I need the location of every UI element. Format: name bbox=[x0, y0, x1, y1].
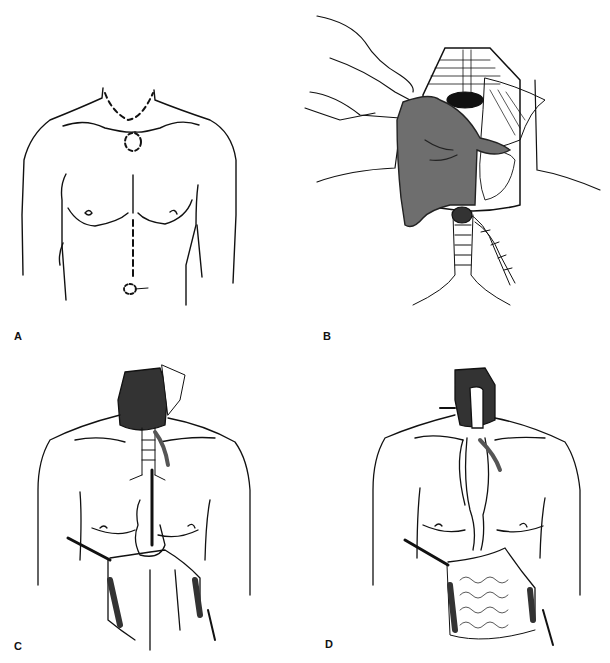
panel-c: C bbox=[0, 330, 305, 663]
mediastinal-dissection-illustration bbox=[305, 0, 610, 330]
panel-a: A bbox=[0, 0, 305, 330]
panel-label-c: C bbox=[14, 640, 22, 652]
panel-d: D bbox=[305, 330, 610, 663]
panel-b: B bbox=[305, 0, 610, 330]
gastric-pullup-illustration bbox=[305, 330, 610, 663]
torso-incision-illustration bbox=[0, 0, 305, 330]
panel-label-d: D bbox=[325, 638, 333, 650]
esophagus-delivery-illustration bbox=[0, 330, 305, 663]
